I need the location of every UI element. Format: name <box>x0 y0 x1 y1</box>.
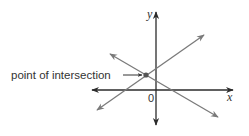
coordinate-diagram: point of intersection 0 x y <box>0 0 249 136</box>
x-axis-label: x <box>226 90 233 104</box>
origin-label: 0 <box>148 92 154 104</box>
y-axis-label: y <box>146 7 153 21</box>
intersection-label: point of intersection <box>11 69 111 81</box>
intersection-point <box>143 72 148 77</box>
